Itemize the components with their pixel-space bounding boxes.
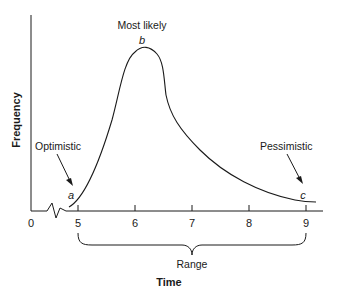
x-axis: [31, 203, 323, 218]
tick-label-8: 8: [246, 217, 252, 229]
most-likely-label: Most likely: [117, 19, 167, 31]
optimistic-arrowhead-icon: [66, 178, 73, 186]
frequency-curve: [69, 47, 316, 207]
tick-label-7: 7: [189, 217, 195, 229]
point-c-label: c: [300, 189, 306, 201]
chart-canvas: 0 5 6 7 8 9 Frequency Most likely b Opti…: [0, 0, 338, 296]
y-axis-label: Frequency: [10, 91, 22, 148]
tick-label-0: 0: [28, 217, 34, 229]
optimistic-label: Optimistic: [35, 140, 81, 152]
pessimistic-arrowhead-icon: [296, 176, 303, 184]
point-b-label: b: [139, 34, 145, 46]
tick-label-6: 6: [132, 217, 138, 229]
point-a-label: a: [68, 189, 74, 201]
optimistic-arrow: [57, 154, 71, 183]
range-brace: [78, 233, 306, 255]
range-label: Range: [177, 258, 208, 270]
tick-label-5: 5: [75, 217, 81, 229]
x-axis-label: Time: [156, 276, 181, 288]
pessimistic-label: Pessimistic: [260, 140, 313, 152]
x-ticks: [78, 205, 306, 211]
tick-label-9: 9: [303, 217, 309, 229]
